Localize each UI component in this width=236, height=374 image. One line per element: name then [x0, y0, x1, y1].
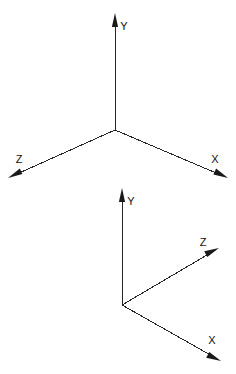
upper-x-axis-arrowhead [213, 169, 228, 178]
upper-z-axis-label: Z [16, 153, 23, 165]
upper-x-axis-label: X [211, 153, 219, 165]
lower-z-axis-line [122, 255, 207, 305]
upper-z-axis: Z [8, 130, 115, 178]
axes-canvas: Y Z X Y [0, 0, 236, 374]
upper-x-axis: X [115, 130, 228, 178]
upper-coordinate-system: Y Z X [8, 13, 228, 178]
upper-y-axis: Y [112, 13, 128, 130]
upper-y-axis-arrowhead [112, 13, 118, 27]
lower-z-axis-label: Z [200, 236, 207, 248]
lower-coordinate-system: Y Z X [119, 188, 221, 361]
lower-z-axis: Z [122, 236, 219, 305]
lower-y-axis: Y [119, 188, 135, 305]
upper-z-axis-arrowhead [8, 168, 22, 178]
lower-y-axis-arrowhead [119, 188, 125, 202]
upper-z-axis-line [20, 130, 115, 173]
lower-x-axis-line [122, 305, 209, 354]
upper-y-axis-label: Y [120, 20, 128, 32]
lower-x-axis: X [122, 305, 221, 361]
lower-x-axis-label: X [208, 334, 216, 346]
lower-y-axis-label: Y [127, 195, 135, 207]
upper-x-axis-line [115, 130, 216, 173]
figure-root: Y Z X Y [0, 0, 236, 374]
